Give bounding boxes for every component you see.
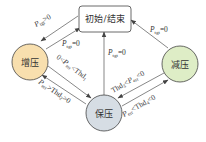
node-increase-label: 增压 [21, 57, 39, 68]
label-ptgt-eq0-increase: Ptgt=0 [61, 39, 80, 49]
node-decrease: 减压 [162, 46, 198, 82]
node-decrease-label: 减压 [171, 59, 189, 70]
node-hold-label: 保压 [95, 108, 113, 119]
label-ptgt-eq0-decrease: Ptgt=0 [149, 25, 168, 35]
node-hold: 保压 [86, 95, 122, 131]
diagram-svg: 初始/结束 增压 减压 保压 Ptgt>0 Ptgt=0 Ptgt=0 Ptgt… [0, 0, 206, 142]
node-increase: 增压 [12, 44, 48, 80]
label-ptgt-eq0-hold: Ptgt=0 [107, 48, 126, 58]
label-increase-to-hold: 0<Perr<Thd1 [54, 52, 90, 82]
label-decrease-to-hold: Thd3<Perr<0 [110, 68, 147, 95]
node-start-end-label: 初始/结束 [85, 13, 124, 24]
state-diagram: 初始/结束 增压 减压 保压 Ptgt>0 Ptgt=0 Ptgt=0 Ptgt… [0, 0, 206, 142]
node-start-end: 初始/结束 [79, 6, 131, 32]
label-ptgt-gt0: Ptgt>0 [32, 12, 53, 30]
